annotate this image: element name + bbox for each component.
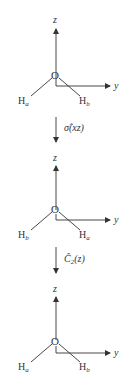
symmetry-diagram: z y O Ha Hb σ̂(xz) z y O Hb Ha Ĉ2(z) z — [0, 0, 129, 389]
bond-left — [31, 78, 52, 96]
molecule-stage-after-c2: z y O Ha Hb — [18, 283, 119, 374]
molecule-stage-initial: z y O Ha Hb — [18, 14, 119, 108]
oxygen-atom: O — [51, 335, 59, 347]
bond-left — [31, 344, 52, 362]
oxygen-atom: O — [51, 69, 59, 81]
y-axis-label: y — [113, 80, 119, 91]
bond-right — [59, 212, 80, 230]
bond-left — [31, 212, 52, 230]
hydrogen-right: Ha — [79, 229, 90, 242]
z-axis-label: z — [52, 152, 57, 163]
operation-label: Ĉ2(z) — [64, 253, 85, 266]
z-axis-label: z — [52, 283, 57, 294]
operation-c2-z: Ĉ2(z) — [56, 247, 85, 273]
hydrogen-left: Ha — [18, 361, 29, 374]
y-axis-label: y — [113, 214, 119, 225]
hydrogen-right: Hb — [79, 95, 90, 108]
molecule-stage-after-sigma: z y O Hb Ha — [18, 152, 119, 242]
hydrogen-left: Hb — [18, 229, 29, 242]
y-axis-label: y — [113, 347, 119, 358]
bond-right — [59, 78, 80, 96]
z-axis-label: z — [52, 14, 57, 25]
oxygen-atom: O — [51, 203, 59, 215]
hydrogen-right: Hb — [79, 361, 90, 374]
hydrogen-left: Ha — [18, 95, 29, 108]
operation-sigma-xz: σ̂(xz) — [56, 117, 85, 142]
operation-label: σ̂(xz) — [64, 122, 85, 134]
